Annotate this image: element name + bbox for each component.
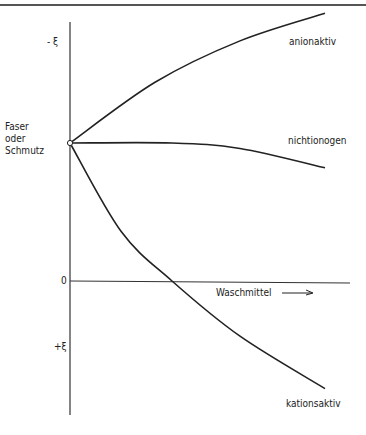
y-tick-pos-xi: +ξ xyxy=(54,341,67,353)
anionaktiv-curve xyxy=(70,13,325,143)
legend-nichtionogen: nichtionogen xyxy=(288,135,347,147)
legend-kationsaktiv: kationsaktiv xyxy=(286,398,341,410)
x-axis-zero-line xyxy=(70,281,350,283)
y-tick-zero: 0 xyxy=(61,275,67,287)
ylabel-line-3: Schmutz xyxy=(5,145,44,157)
y-tick-neg-xi: - ξ xyxy=(47,36,58,48)
ylabel-line-2: oder xyxy=(5,133,25,145)
ylabel-line-1: Faser xyxy=(5,121,29,133)
zeta-potential-diagram xyxy=(0,0,366,435)
x-axis-label: Waschmittel xyxy=(216,287,271,299)
start-point-marker xyxy=(67,140,72,145)
legend-anionaktiv: anionaktiv xyxy=(289,36,336,48)
kationsaktiv-curve xyxy=(70,143,325,389)
nichtionogen-curve xyxy=(70,143,325,168)
